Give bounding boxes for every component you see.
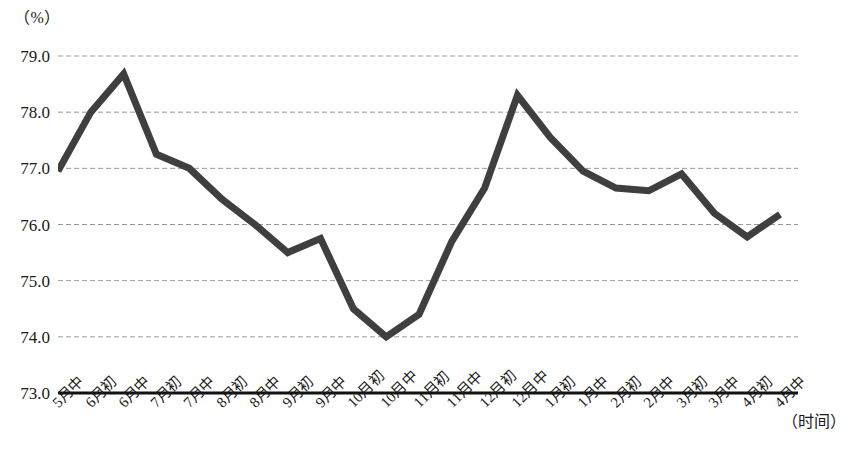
line-chart: （%） 79.078.077.076.075.074.073.0 5月中6月初6… <box>0 0 853 460</box>
y-tick-label: 76.0 <box>2 216 50 233</box>
y-tick-label: 75.0 <box>2 272 50 289</box>
y-tick-label: 74.0 <box>2 328 50 345</box>
x-axis-title: （时间） <box>782 408 846 432</box>
y-tick-label: 79.0 <box>2 48 50 65</box>
y-tick-label: 77.0 <box>2 160 50 177</box>
y-axis-tick-labels: 79.078.077.076.075.074.073.0 <box>0 0 50 460</box>
y-tick-label: 78.0 <box>2 104 50 121</box>
data-series-line <box>58 74 780 337</box>
y-tick-label: 73.0 <box>2 385 50 402</box>
